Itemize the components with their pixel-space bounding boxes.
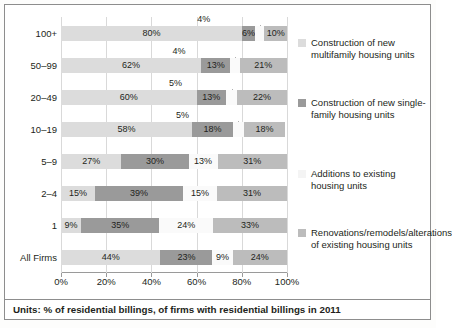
- category-label: All Firms: [5, 253, 57, 263]
- units-note: Units: % of residential billings, of fir…: [5, 304, 341, 315]
- footer-bar: Units: % of residential billings, of fir…: [4, 299, 431, 320]
- x-axis-tick-label: 100%: [275, 277, 299, 287]
- x-axis-tick-label: 80%: [232, 277, 251, 287]
- bar-segment: 44%: [61, 250, 160, 265]
- bar-segment: 27%: [61, 154, 121, 169]
- category-label: 100+: [5, 29, 57, 39]
- x-axis-labels: 0%20%40%60%80%100%: [61, 277, 287, 291]
- bar-row: 27%30%13%31%: [61, 154, 287, 169]
- legend-swatch-icon: [298, 39, 306, 47]
- bar-row: 60%13%22%: [61, 90, 287, 105]
- bar-segment: 15%: [61, 186, 95, 201]
- category-axis: 100+50–9920–4910–195–92–41All Firms: [5, 5, 57, 273]
- bar-segment: 13%: [197, 90, 226, 105]
- segment-callout-label: 5%: [156, 79, 196, 88]
- x-axis-tick-label: 60%: [187, 277, 206, 287]
- bar-row: 58%18%18%: [61, 122, 287, 137]
- gridline: [151, 17, 152, 273]
- category-label: 1: [5, 221, 57, 231]
- gridline: [106, 17, 107, 273]
- category-label: 10–19: [5, 125, 57, 135]
- bar-segment: 60%: [61, 90, 197, 105]
- bar-segment: 62%: [61, 58, 201, 73]
- legend-label: Construction of new multifamily housing …: [311, 37, 426, 60]
- bar-row: 62%13%21%: [61, 58, 287, 73]
- bar-segment: 30%: [121, 154, 188, 169]
- bar-segment: 10%: [264, 26, 287, 41]
- legend-swatch-icon: [298, 99, 306, 107]
- segment-callout-label: 4%: [159, 47, 199, 56]
- gridline: [287, 17, 288, 273]
- x-axis-tick-label: 0%: [54, 277, 68, 287]
- bar-segment: 18%: [244, 122, 285, 137]
- bar-segment: [255, 26, 264, 41]
- bar-row: 44%23%9%24%: [61, 250, 287, 265]
- bar-segment: 23%: [160, 250, 212, 265]
- bar-segment: 13%: [201, 58, 230, 73]
- bar-segment: 24%: [159, 218, 213, 233]
- category-label: 20–49: [5, 93, 57, 103]
- chart-panel: 100+50–9920–4910–195–92–41All Firms 80%6…: [5, 5, 290, 295]
- bar-segment: 31%: [218, 154, 287, 169]
- bar-row: 9%35%24%33%: [61, 218, 287, 233]
- bar-segment: 9%: [61, 218, 81, 233]
- bar-row: 15%39%15%31%: [61, 186, 287, 201]
- bar-segment: 80%: [61, 26, 242, 41]
- bar-segment: 21%: [240, 58, 287, 73]
- bar-segment: 39%: [95, 186, 183, 201]
- bar-segment: 15%: [183, 186, 217, 201]
- category-label: 2–4: [5, 189, 57, 199]
- bar-segment: 33%: [213, 218, 287, 233]
- bar-segment: 31%: [217, 186, 287, 201]
- legend-item[interactable]: Renovations/remodels/alterations of exis…: [298, 227, 426, 250]
- bar-segment: 22%: [237, 90, 287, 105]
- legend-swatch-icon: [298, 229, 306, 237]
- segment-callout-label: 5%: [162, 111, 202, 120]
- bar-segment: [233, 122, 244, 137]
- bar-segment: 18%: [192, 122, 233, 137]
- legend-label: Construction of new single-family housin…: [311, 97, 426, 120]
- bar-segment: 6%: [242, 26, 256, 41]
- gridline: [242, 17, 243, 273]
- x-axis-tick-label: 20%: [97, 277, 116, 287]
- bar-segment: [226, 90, 237, 105]
- legend-item[interactable]: Additions to existing housing units: [298, 168, 426, 191]
- bar-segment: 13%: [189, 154, 218, 169]
- gridline: [61, 17, 62, 273]
- legend-item[interactable]: Construction of new multifamily housing …: [298, 37, 426, 60]
- bar-segment: 35%: [81, 218, 159, 233]
- segment-callout-label: 4%: [184, 15, 224, 24]
- bar-segment: 24%: [233, 250, 287, 265]
- category-label: 50–99: [5, 61, 57, 71]
- legend: Construction of new multifamily housing …: [298, 5, 426, 295]
- legend-item[interactable]: Construction of new single-family housin…: [298, 97, 426, 120]
- x-axis-tick-label: 40%: [142, 277, 161, 287]
- x-axis-line: [61, 272, 287, 273]
- bar-segment: 58%: [61, 122, 192, 137]
- bar-segment: [230, 58, 239, 73]
- legend-label: Renovations/remodels/alterations of exis…: [311, 227, 452, 250]
- category-label: 5–9: [5, 157, 57, 167]
- bar-segment: 9%: [212, 250, 232, 265]
- legend-label: Additions to existing housing units: [311, 168, 426, 191]
- bar-row: 80%6%10%: [61, 26, 287, 41]
- legend-swatch-icon: [298, 170, 306, 178]
